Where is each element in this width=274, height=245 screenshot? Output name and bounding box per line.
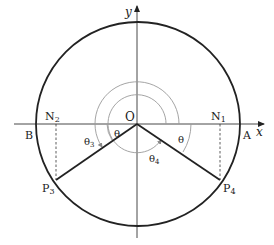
unit-circle-diagram: y x O B A N2 N1 P3 P4 θ θ θ3 θ4 — [0, 0, 274, 245]
theta-left-label: θ — [114, 128, 120, 139]
point-P3-label: P3 — [42, 182, 55, 196]
point-P4-label: P4 — [223, 182, 236, 196]
y-axis-label: y — [124, 5, 132, 19]
segment-OP3 — [56, 124, 137, 180]
x-axis-label: x — [256, 125, 263, 139]
point-B-label: B — [25, 129, 33, 142]
theta3-label: θ3 — [84, 136, 95, 149]
theta-right-arc — [183, 124, 191, 152]
origin-label: O — [125, 110, 135, 124]
point-A-label: A — [242, 129, 252, 142]
theta4-label: θ4 — [149, 153, 160, 166]
theta-right-label: θ — [178, 134, 184, 145]
segment-OP4 — [137, 124, 220, 180]
point-N1-label: N1 — [211, 110, 226, 124]
point-N2-label: N2 — [45, 110, 60, 124]
